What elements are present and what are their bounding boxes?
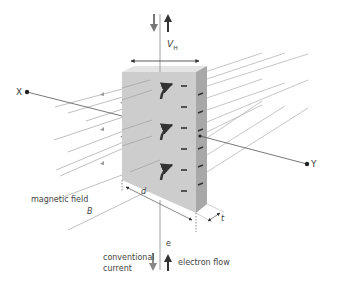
x-axis-point: [25, 90, 29, 94]
slab-side-face: [196, 66, 207, 213]
slab-top-face: [122, 66, 207, 72]
y-axis-point: [305, 162, 309, 166]
top-current-arrows: [150, 14, 172, 32]
electron-flow-label: electron flow: [178, 259, 230, 267]
magnetic-field-label: magnetic field: [31, 196, 88, 204]
conventional-current-label-line2: current: [103, 265, 132, 273]
electron-flow-arrow-icon: [164, 254, 172, 271]
electron-symbol-label: e: [166, 240, 171, 248]
hall-voltage-label: VH: [167, 40, 178, 51]
width-symbol-label: d: [141, 188, 146, 196]
conventional-current-label-line1: conventional: [103, 254, 155, 262]
x-axis-line: [25, 90, 126, 117]
up-arrow-icon: [164, 14, 172, 32]
down-arrow-icon: [150, 14, 158, 32]
field-symbol-label: B: [87, 208, 93, 216]
axis-x-label: X: [16, 88, 22, 97]
magnetic-field-lines-right: [205, 53, 308, 172]
thickness-symbol-label: t: [221, 215, 224, 223]
axis-y-label: Y: [311, 160, 317, 169]
